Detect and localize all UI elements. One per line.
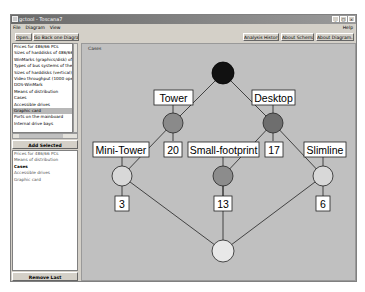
menu-view[interactable]: View	[50, 24, 61, 32]
count-small-footprint: 13	[214, 196, 232, 211]
menu-file[interactable]: File	[13, 24, 21, 32]
selected-attributes-list[interactable]: Prices for 486/66 PCs Means of distribut…	[12, 150, 78, 271]
remove-last-button[interactable]: Remove Last	[12, 272, 78, 281]
svg-text:Desktop: Desktop	[254, 92, 293, 104]
node-desktop[interactable]	[263, 113, 283, 133]
label-tower[interactable]: Tower	[154, 90, 193, 105]
add-selected-button[interactable]: Add Selected	[12, 140, 78, 149]
svg-text:17: 17	[268, 144, 280, 156]
svg-text:Small-footprint: Small-footprint	[190, 144, 258, 156]
app-window: gctool - Toscana7 _ □ × File Diagram Vie…	[10, 14, 357, 282]
list-item[interactable]: Types of bus systems of the 486	[13, 63, 72, 69]
count-slimline: 6	[316, 196, 330, 211]
label-small-footprint[interactable]: Small-footprint	[188, 142, 259, 157]
analysis-history-button[interactable]: Analysis History...	[243, 33, 279, 41]
go-back-button[interactable]: Go Back one Diagram	[33, 33, 79, 41]
list-item[interactable]: Graphic card	[13, 177, 77, 183]
toolbar: Open... Go Back one Diagram Analysis His…	[11, 32, 356, 43]
horizontal-scrollbar[interactable]	[12, 133, 78, 139]
label-slimline[interactable]: Slimline	[304, 142, 346, 157]
svg-text:3: 3	[119, 198, 125, 210]
svg-text:6: 6	[320, 198, 326, 210]
lattice-diagram: Tower Desktop Mini-Tower Small-footprint…	[81, 43, 356, 281]
node-mini-tower[interactable]	[112, 166, 132, 186]
vertical-scrollbar[interactable]	[73, 43, 78, 133]
node-top[interactable]	[212, 62, 234, 84]
list-item[interactable]: Sizes of harddisks of 486/66 PCs	[13, 50, 72, 56]
menu-help[interactable]: Help	[343, 24, 353, 32]
minimize-button[interactable]: _	[332, 16, 339, 22]
window-title: gctool - Toscana7	[19, 16, 62, 22]
attribute-list[interactable]: Prices for 486/66 PCs Sizes of harddisks…	[12, 43, 73, 133]
svg-text:Tower: Tower	[159, 92, 188, 104]
maximize-button[interactable]: □	[340, 16, 347, 22]
about-diagram-button[interactable]: About Diagram...	[316, 33, 354, 41]
svg-text:Mini-Tower: Mini-Tower	[96, 144, 147, 156]
node-slimline[interactable]	[313, 166, 333, 186]
svg-text:Slimline: Slimline	[307, 144, 344, 156]
about-schema-button[interactable]: About Schema...	[281, 33, 314, 41]
app-icon	[12, 16, 18, 22]
scrollbar-thumb[interactable]	[19, 134, 63, 138]
node-bottom[interactable]	[212, 240, 234, 262]
open-button[interactable]: Open...	[15, 33, 32, 41]
list-item[interactable]: Internal drive bays	[13, 121, 72, 127]
label-desktop[interactable]: Desktop	[252, 90, 295, 105]
svg-text:13: 13	[217, 198, 229, 210]
menu-bar: File Diagram View Help	[11, 24, 356, 32]
count-mini-tower: 3	[115, 196, 129, 211]
node-tower[interactable]	[163, 113, 183, 133]
label-mini-tower[interactable]: Mini-Tower	[93, 142, 149, 157]
count-desktop: 17	[265, 142, 283, 157]
diagram-canvas[interactable]: Cases	[81, 43, 356, 281]
menu-diagram[interactable]: Diagram	[26, 24, 45, 32]
left-panel: Prices for 486/66 PCs Sizes of harddisks…	[12, 43, 79, 281]
close-button[interactable]: ×	[348, 16, 355, 22]
count-tower: 20	[164, 142, 182, 157]
node-small-footprint[interactable]	[213, 166, 233, 186]
title-bar: gctool - Toscana7 _ □ ×	[11, 15, 356, 24]
svg-text:20: 20	[167, 144, 179, 156]
